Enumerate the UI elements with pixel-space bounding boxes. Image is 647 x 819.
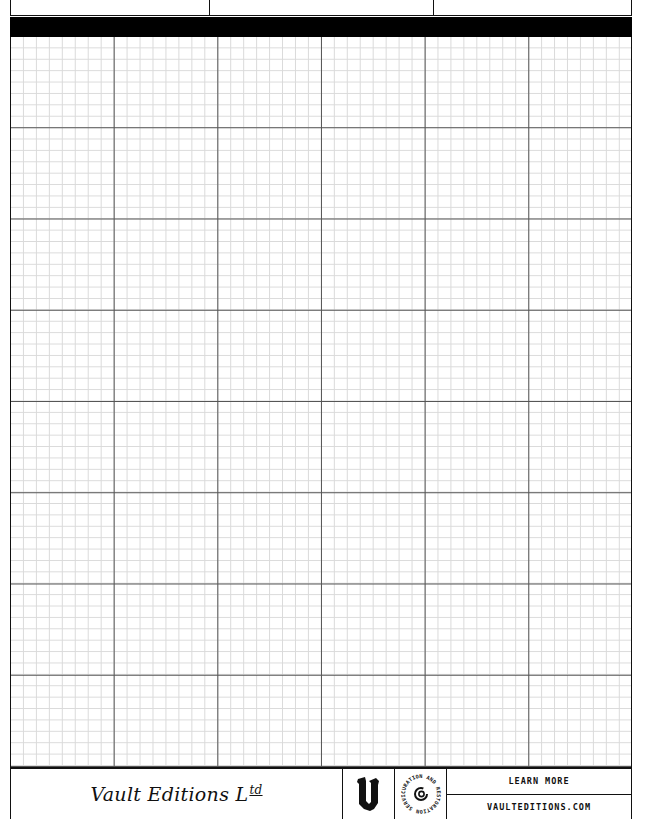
footer-links: LEARN MORE VAULTEDITIONS.COM: [446, 769, 631, 819]
footer-brand: Vault Editions Ltd: [11, 769, 342, 819]
header-black-bar: [10, 17, 632, 37]
seal-text: CURATION AND RESTORATION SERVICES ·: [399, 772, 442, 815]
footer-seal-cell: CURATION AND RESTORATION SERVICES ·: [394, 769, 446, 819]
spiral-c-icon: [415, 788, 427, 800]
brand-name-text: Vault Editions L: [90, 783, 248, 805]
footer: Vault Editions Ltd CURATION AND RESTORAT…: [10, 767, 632, 819]
header-box-2: [209, 0, 433, 15]
curation-seal-icon: CURATION AND RESTORATION SERVICES ·: [399, 772, 443, 816]
footer-logo-cell: [342, 769, 394, 819]
website-link[interactable]: VAULTEDITIONS.COM: [447, 794, 631, 819]
gothic-v-logo-icon: [356, 777, 382, 811]
header-box-1: [11, 0, 209, 15]
learn-more-link[interactable]: LEARN MORE: [447, 769, 631, 794]
header-box-3: [433, 0, 631, 15]
graph-paper-grid: [10, 37, 632, 767]
header-boxes: [10, 0, 632, 16]
brand-suffix: td: [249, 783, 262, 797]
svg-text:CURATION AND RESTORATION SERVI: CURATION AND RESTORATION SERVICES ·: [399, 772, 442, 815]
brand-name: Vault Editions Ltd: [90, 783, 262, 805]
